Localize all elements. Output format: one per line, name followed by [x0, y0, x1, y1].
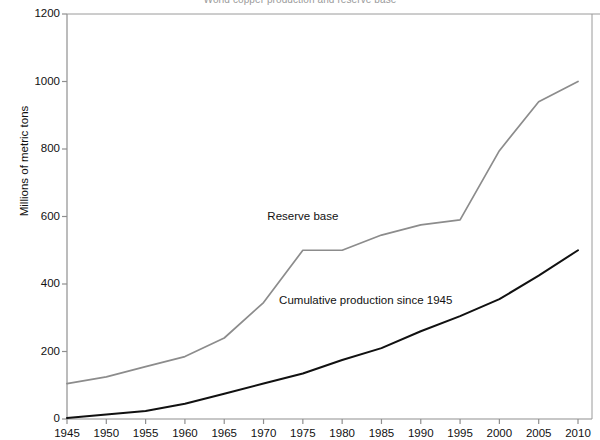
series-line-reserve-base	[67, 82, 578, 384]
x-axis-ticks	[67, 419, 578, 424]
axis-lines	[67, 14, 600, 419]
y-axis-ticks	[62, 14, 67, 419]
data-series-lines	[67, 82, 578, 418]
x-tick-label: 2010	[553, 428, 600, 440]
series-line-cumulative-production-since-1945	[67, 250, 578, 418]
